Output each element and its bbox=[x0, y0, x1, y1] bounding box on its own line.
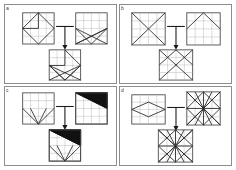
panel-d-connector bbox=[167, 107, 185, 130]
panel-d-result[interactable] bbox=[158, 130, 192, 162]
panel-b-operand-right[interactable] bbox=[187, 13, 220, 45]
screenshot-root: a bbox=[0, 0, 236, 170]
panel-a-stage bbox=[5, 5, 116, 83]
panel-c-result[interactable] bbox=[49, 130, 80, 161]
panel-d-operand-right[interactable] bbox=[187, 92, 220, 125]
panel-c[interactable]: c bbox=[4, 86, 117, 166]
panel-c-connector bbox=[56, 107, 74, 130]
panel-a-operand-right[interactable] bbox=[76, 13, 107, 44]
panel-d-stage bbox=[120, 87, 231, 165]
panel-c-operand-left[interactable] bbox=[23, 93, 54, 124]
panel-c-operand-right[interactable] bbox=[76, 93, 107, 124]
panel-a[interactable]: a bbox=[4, 4, 117, 84]
panel-b-result[interactable] bbox=[159, 50, 192, 80]
panel-b[interactable]: b bbox=[119, 4, 232, 84]
panel-d[interactable]: d bbox=[119, 86, 232, 166]
panel-a-operand-left[interactable] bbox=[23, 13, 54, 44]
panel-b-connector bbox=[167, 26, 185, 49]
panel-a-result[interactable] bbox=[49, 50, 80, 80]
panel-c-stage bbox=[5, 87, 116, 165]
panel-b-operand-left[interactable] bbox=[132, 13, 165, 45]
panel-d-operand-left[interactable] bbox=[132, 95, 165, 124]
panel-a-connector bbox=[56, 26, 74, 49]
panel-b-stage bbox=[120, 5, 231, 83]
